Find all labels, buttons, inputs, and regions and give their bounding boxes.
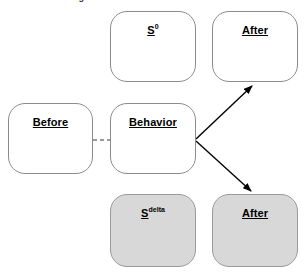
node-s-delta-label-text: S <box>141 207 148 219</box>
node-s-zero[interactable]: S0 <box>110 11 196 82</box>
node-before-label-text: Before <box>33 116 68 128</box>
node-after-top-label-text: After <box>242 24 268 36</box>
node-before[interactable]: Before <box>8 103 93 174</box>
node-s-delta-label: Sdelta <box>111 203 195 220</box>
node-after-bottom-label: After <box>213 203 297 220</box>
arrow-behavior-to-after-top <box>196 86 252 139</box>
node-s-delta[interactable]: Sdelta <box>110 194 196 267</box>
node-behavior-label-text: Behavior <box>129 116 177 128</box>
node-behavior[interactable]: Behavior <box>110 103 196 174</box>
node-after-top-label: After <box>213 20 297 37</box>
node-s-delta-label-superscript: delta <box>149 206 165 213</box>
node-after-bottom-label-text: After <box>242 207 268 219</box>
node-behavior-label: Behavior <box>111 112 195 129</box>
node-after-top[interactable]: After <box>212 11 298 82</box>
diagram-title-cropped: Figure: Before / Behavior / After states <box>0 0 305 2</box>
node-after-bottom[interactable]: After <box>212 194 298 267</box>
node-s-zero-label-text: S <box>147 24 154 36</box>
node-before-label: Before <box>9 112 92 129</box>
diagram-canvas: Figure: Before / Behavior / After states… <box>0 0 305 274</box>
node-s-zero-label: S0 <box>111 20 195 37</box>
node-s-zero-label-superscript: 0 <box>155 23 159 30</box>
arrow-behavior-to-after-bottom <box>196 141 251 191</box>
